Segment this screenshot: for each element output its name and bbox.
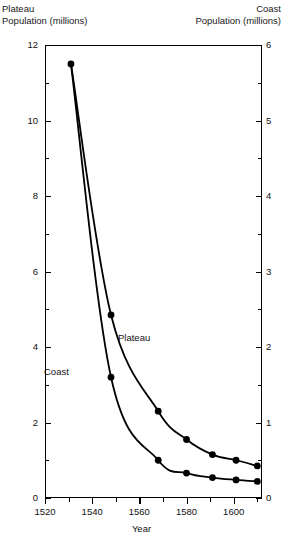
data-point-plateau-1580 [183, 436, 190, 443]
series-line-plateau [71, 64, 257, 466]
data-point-coast-1591 [209, 474, 216, 481]
data-point-coast-1610 [254, 478, 261, 485]
data-point-plateau-1610 [254, 463, 261, 470]
series-label-plateau: Plateau [118, 332, 150, 343]
data-point-coast-1580 [183, 470, 190, 477]
data-point-plateau-1591 [209, 451, 216, 458]
data-point-coast-1601 [233, 476, 240, 483]
data-point-plateau-1548 [108, 312, 115, 319]
data-point-plateau-1601 [233, 457, 240, 464]
x-axis-title: Year [0, 523, 283, 534]
series-plot-area [0, 0, 283, 537]
series-label-coast: Coast [44, 366, 69, 377]
population-decline-chart: PlateauPopulation (millions) CoastPopula… [0, 0, 283, 537]
data-point-plateau-1568 [155, 408, 162, 415]
data-point-coast-1548 [108, 374, 115, 381]
data-point-coast-1568 [155, 457, 162, 464]
